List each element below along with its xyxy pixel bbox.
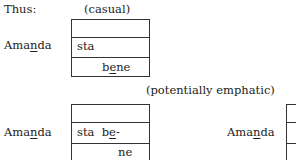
speaker-name-post: da: [38, 38, 52, 52]
emphatic-left-grid-divider-2: [71, 143, 150, 144]
speaker-name-post: da: [38, 125, 52, 139]
emphatic-right-speaker: Amanda: [227, 127, 275, 139]
speaker-name-underlined: n: [30, 125, 37, 139]
casual-grid-divider-1: [71, 37, 150, 38]
thus-label: Thus:: [4, 4, 36, 16]
casual-grid-divider-2: [71, 57, 150, 58]
emphatic-right-grid: [286, 104, 296, 160]
emphatic-left-row-2-text: sta be-: [77, 127, 120, 139]
speaker-name-underlined: n: [30, 38, 37, 52]
emphatic-left-grid-divider-1: [71, 122, 150, 123]
casual-row-3-text: bene: [102, 62, 130, 74]
row-text-post: -: [116, 125, 120, 139]
row-text-post: ne: [116, 60, 130, 74]
speaker-name-pre: Ama: [4, 38, 30, 52]
emphatic-right-grid-divider-2: [286, 143, 296, 144]
emphatic-left-row-3-text: ne: [118, 147, 132, 159]
speaker-name-post: da: [261, 125, 275, 139]
emphatic-left-speaker: Amanda: [4, 127, 52, 139]
row-text-underlined: e: [109, 125, 116, 139]
emphatic-right-grid-divider-1: [286, 122, 296, 123]
casual-row-2-text: sta: [77, 41, 94, 53]
emphatic-caption: (potentially emphatic): [146, 85, 275, 97]
speaker-name-underlined: n: [253, 125, 260, 139]
speaker-name-pre: Ama: [227, 125, 253, 139]
casual-speaker: Amanda: [4, 40, 52, 52]
casual-caption: (casual): [84, 4, 130, 16]
row-text-pre: sta b: [77, 125, 109, 139]
speaker-name-pre: Ama: [4, 125, 30, 139]
